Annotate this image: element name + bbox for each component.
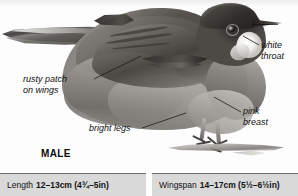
- field-guide-page: white throat rusty patch on wings pink b…: [0, 0, 298, 196]
- measurement-cell-length: Length 12–13cm (4¾–5in): [0, 173, 146, 196]
- annotation-pink-breast: pink breast: [243, 106, 268, 127]
- measurement-cell-wingspan: Wingspan 14–17cm (5½–6½in): [152, 173, 298, 196]
- perch-twig-branch: [232, 150, 266, 156]
- sex-caption-male: MALE: [41, 148, 71, 159]
- length-value: 12–13cm (4¾–5in): [36, 180, 109, 190]
- annotation-white-throat: white throat: [261, 40, 284, 61]
- wingspan-label: Wingspan: [159, 180, 197, 190]
- top-edge-fade: [0, 0, 298, 7]
- perch-twig: [168, 142, 284, 151]
- measurements-table: Length 12–13cm (4¾–5in) Wingspan 14–17cm…: [0, 173, 298, 196]
- wingspan-value: 14–17cm (5½–6½in): [200, 180, 280, 190]
- length-label: Length: [7, 180, 33, 190]
- annotation-rusty-patch-on-wings: rusty patch on wings: [23, 74, 67, 95]
- measurements-divider: [148, 173, 150, 196]
- bird-beak-line: [252, 24, 278, 25]
- bird-illustration-plate: white throat rusty patch on wings pink b…: [0, 0, 298, 173]
- annotation-bright-legs: bright legs: [89, 123, 131, 134]
- bird-eye: [228, 26, 235, 32]
